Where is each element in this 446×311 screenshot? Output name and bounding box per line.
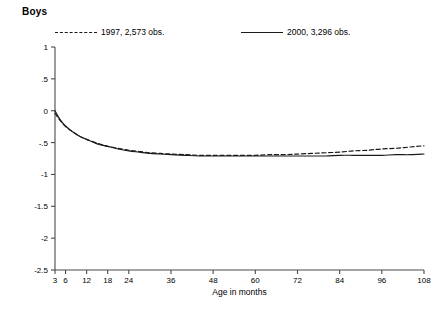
x-axis-tick-label: 6 <box>63 276 68 285</box>
x-axis-tick-label: 24 <box>124 276 133 285</box>
y-axis-tick-label: 0 <box>44 107 49 116</box>
plot-area: 1.50-.5-1-1.5-2-2.5361218243648607284961… <box>0 0 446 311</box>
x-axis-tick-label: 12 <box>82 276 91 285</box>
x-axis-tick-label: 72 <box>293 276 302 285</box>
x-axis-tick-label: 96 <box>377 276 386 285</box>
axes: 1.50-.5-1-1.5-2-2.5361218243648607284961… <box>34 43 431 285</box>
y-axis-tick-label: -1 <box>41 170 49 179</box>
x-axis-tick-label: 108 <box>417 276 431 285</box>
y-axis-tick-label: -2 <box>41 234 49 243</box>
x-axis-tick-label: 3 <box>53 276 58 285</box>
x-axis-tick-label: 60 <box>251 276 260 285</box>
series-line-2000 <box>55 111 424 156</box>
x-axis-title: Age in months <box>212 287 266 297</box>
chart-figure: Boys 1997, 2,573 obs. 2000, 3,296 obs. 1… <box>0 0 446 311</box>
x-axis-tick-label: 18 <box>103 276 112 285</box>
series-line-1997 <box>55 113 424 155</box>
y-axis-tick-label: 1 <box>44 43 49 52</box>
y-axis-tick-label: -1.5 <box>34 202 48 211</box>
x-axis-tick-label: 48 <box>209 276 218 285</box>
y-axis-tick-label: -.5 <box>39 139 49 148</box>
y-axis-tick-label: -2.5 <box>34 266 48 275</box>
x-axis-tick-label: 84 <box>335 276 344 285</box>
y-axis-tick-label: .5 <box>41 75 48 84</box>
x-axis-tick-label: 36 <box>167 276 176 285</box>
data-series <box>55 111 424 156</box>
